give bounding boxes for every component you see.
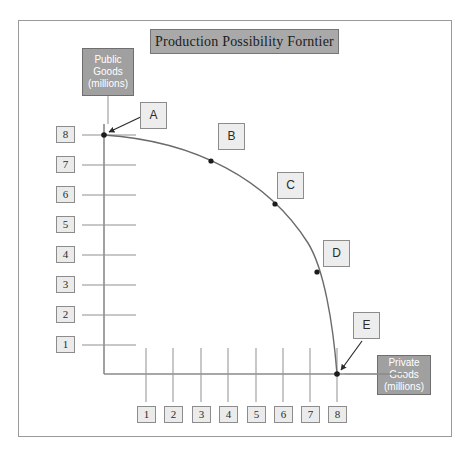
x-axis-title-line-2: Goods [389,369,418,381]
y-tick-label-1: 1 [56,336,75,353]
y-tick-label-2: 2 [56,306,75,323]
y-tick-label-7: 7 [56,156,75,173]
screenshot-canvas: Production Possibility Forntier Public G… [0,0,475,459]
y-tick-label-4: 4 [56,246,75,263]
x-tick-label-8: 8 [328,406,347,423]
y-axis-title-line-2: Goods [93,66,122,78]
x-axis-title-line-1: Private [388,357,419,369]
point-label-d: D [323,240,350,267]
x-tick-label-1: 1 [137,406,156,423]
chart-title: Production Possibility Forntier [150,29,339,54]
x-tick-label-5: 5 [247,406,266,423]
x-tick-label-4: 4 [219,406,238,423]
point-label-e: E [353,312,380,339]
y-axis-title-line-3: (millions) [88,78,128,90]
point-label-b: B [218,123,245,150]
y-tick-label-6: 6 [56,186,75,203]
x-tick-label-7: 7 [301,406,320,423]
x-tick-label-2: 2 [164,406,183,423]
y-axis-title: Public Goods (millions) [82,48,134,96]
point-label-a: A [140,102,167,129]
y-axis-title-line-1: Public [94,54,121,66]
y-tick-label-8: 8 [56,126,75,143]
y-tick-label-5: 5 [56,216,75,233]
point-label-c: C [277,172,304,199]
x-axis-title: Private Goods (millions) [377,355,431,395]
x-tick-label-6: 6 [274,406,293,423]
x-tick-label-3: 3 [192,406,211,423]
y-tick-label-3: 3 [56,276,75,293]
x-axis-title-line-3: (millions) [384,381,424,393]
